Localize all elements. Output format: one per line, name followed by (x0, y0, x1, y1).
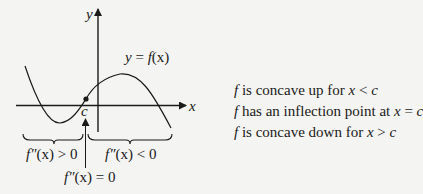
concavity-diagram: x y y = f(x) c f″(x) > 0 f″(x) < 0 f″(x)… (0, 0, 230, 194)
note-concave-up: f is concave up for x < c (234, 80, 423, 101)
condition-bottom: f″(x) = 0 (64, 169, 115, 186)
condition-right: f″(x) < 0 (105, 146, 156, 163)
right-brace (88, 134, 172, 144)
x-axis-label: x (188, 98, 196, 114)
condition-left: f″(x) > 0 (26, 146, 77, 163)
inflection-point (83, 96, 88, 101)
note-concave-down: f is concave down for x > c (234, 122, 423, 143)
concavity-notes: f is concave up for x < c f has an infle… (234, 80, 423, 143)
point-c-label: c (81, 103, 88, 119)
curve-label: y = f(x) (123, 49, 169, 66)
y-axis-label: y (84, 6, 93, 22)
left-brace (23, 134, 83, 144)
note-inflection-point: f has an inflection point at x = c (234, 101, 423, 122)
